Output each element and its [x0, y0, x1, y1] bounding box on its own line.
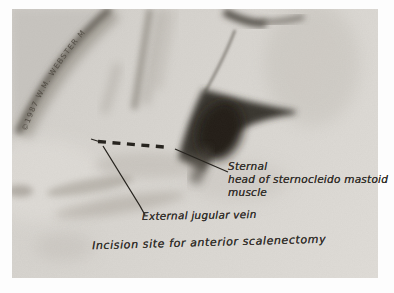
figure-page: ©1987 W.M. WEBSTER M Sternal head of ste…	[0, 0, 394, 293]
sternal-label-line3: muscle	[228, 186, 388, 199]
sternal-head-label: Sternal head of sternocleido mastoid mus…	[228, 160, 388, 199]
sternal-label-line1: Sternal	[228, 160, 388, 173]
sternal-label-line2: head of sternocleido mastoid	[228, 173, 388, 186]
external-jugular-vein-label: External jugular vein	[142, 208, 257, 223]
illustration-photo: ©1987 W.M. WEBSTER M Sternal head of ste…	[12, 9, 378, 278]
